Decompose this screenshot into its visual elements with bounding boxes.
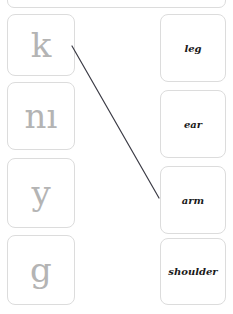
symbol-glyph: y	[31, 176, 50, 210]
matching-exercise-board: k nı y g leg ear arm shoulder	[0, 0, 233, 314]
word-tile-ear[interactable]: ear	[160, 90, 226, 158]
word-label: ear	[184, 119, 202, 130]
word-label: shoulder	[168, 266, 217, 277]
word-tile-shoulder[interactable]: shoulder	[160, 238, 226, 305]
word-label: arm	[182, 195, 204, 206]
symbol-tile-y[interactable]: y	[7, 158, 75, 228]
connector-line-k-arm[interactable]	[72, 46, 159, 198]
symbol-tile-g[interactable]: g	[7, 235, 75, 305]
symbol-tile-ni[interactable]: nı	[7, 82, 75, 150]
symbol-tile-k[interactable]: k	[7, 14, 75, 76]
word-label: leg	[184, 43, 201, 54]
word-tile-arm[interactable]: arm	[160, 166, 226, 234]
symbol-glyph: nı	[25, 99, 58, 133]
word-tile-leg[interactable]: leg	[160, 14, 226, 82]
symbol-glyph: k	[31, 28, 52, 62]
symbol-glyph: g	[30, 253, 52, 287]
top-panel-clipped	[7, 0, 226, 8]
